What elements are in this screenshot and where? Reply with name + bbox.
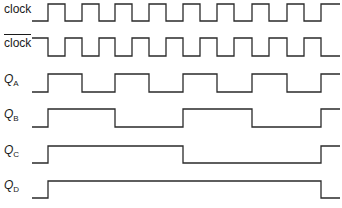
waveform-QA xyxy=(32,74,340,92)
label-qb: QB xyxy=(4,108,19,120)
label-qc: QC xyxy=(4,144,19,156)
label-qa-q: Q xyxy=(4,72,13,86)
timing-diagram: clock clock QA QB QC QD xyxy=(0,0,342,208)
waveform-clock xyxy=(32,4,340,21)
waveform-QD xyxy=(32,181,340,198)
waveform-QB xyxy=(32,109,340,127)
label-qb-q: Q xyxy=(4,107,13,121)
label-clock-bar: clock xyxy=(4,37,31,49)
label-qa: QA xyxy=(4,73,19,85)
waveform-clock_bar xyxy=(32,38,340,56)
label-clock: clock xyxy=(4,3,31,15)
label-clock-text: clock xyxy=(4,2,31,16)
label-qd-subscript: D xyxy=(13,185,19,194)
label-qb-subscript: B xyxy=(13,114,18,123)
label-qc-subscript: C xyxy=(13,150,19,159)
waveforms xyxy=(0,0,342,208)
label-qc-q: Q xyxy=(4,143,13,157)
label-qd: QD xyxy=(4,179,19,191)
waveform-QC xyxy=(32,146,340,163)
label-qa-subscript: A xyxy=(13,79,18,88)
label-clock-bar-text: clock xyxy=(4,34,31,50)
label-qd-q: Q xyxy=(4,178,13,192)
